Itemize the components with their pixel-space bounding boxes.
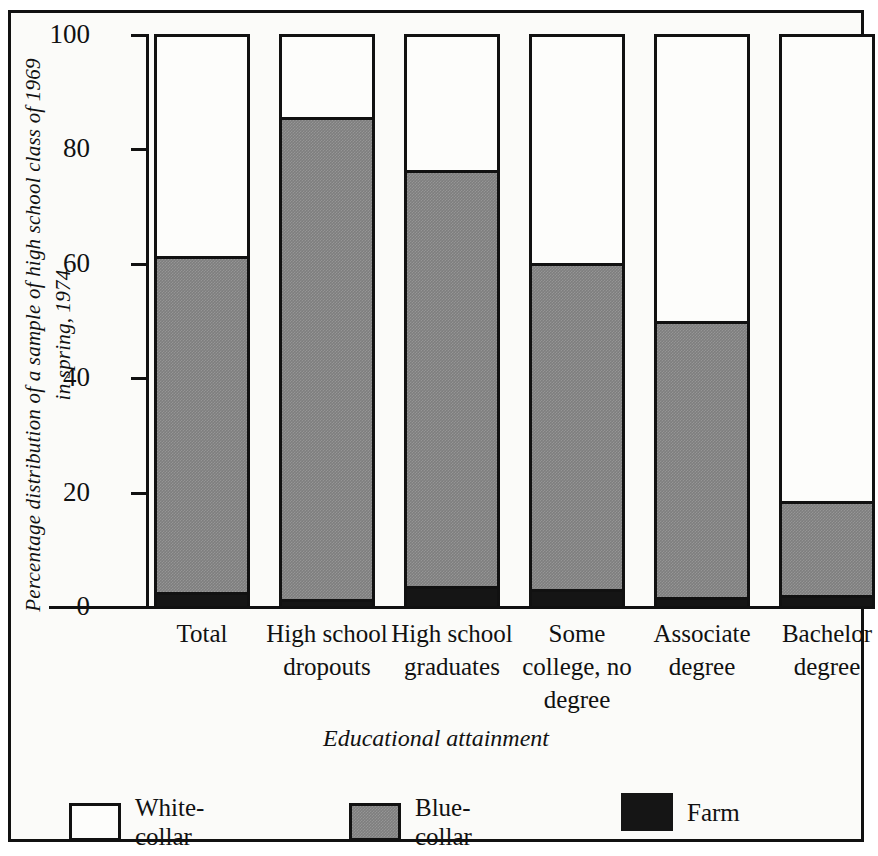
legend-label-white-collar: White- collar — [135, 793, 204, 851]
y-axis-line — [146, 34, 149, 609]
y-axis-tick-40 — [131, 377, 149, 380]
y-axis-tick-label-100: 100 — [26, 19, 90, 50]
legend-entry-white-collar: White- collar — [69, 793, 204, 851]
y-axis-tick-60 — [131, 263, 149, 266]
x-axis-tick-label-high-school-graduates: High school graduates — [382, 617, 522, 683]
legend-swatch-blue-collar-icon — [349, 803, 401, 841]
bar-segment-blue-collar — [282, 117, 372, 599]
y-axis-tick-0 — [131, 606, 149, 609]
bar-segment-farm — [407, 586, 497, 606]
x-axis-tick-label-some-college-no-degree: Some college, no degree — [507, 617, 647, 716]
x-axis-tick-label-high-school-dropouts: High school dropouts — [257, 617, 397, 683]
bar-some-college-no-degree — [529, 34, 625, 609]
bar-segment-farm — [532, 589, 622, 606]
bar-segment-blue-collar — [657, 321, 747, 598]
bar-high-school-graduates — [404, 34, 500, 609]
legend-swatch-white-collar-icon — [69, 803, 121, 841]
x-axis-label: Educational attainment — [11, 725, 861, 752]
bar-bachelor-degree — [779, 34, 875, 609]
y-axis-tick-label-0: 0 — [26, 591, 90, 622]
chart-legend: White- collar Blue- collar Farm — [11, 793, 861, 839]
bar-segment-blue-collar — [782, 501, 872, 594]
legend-label-farm: Farm — [687, 798, 740, 827]
legend-label-blue-collar: Blue- collar — [415, 793, 472, 851]
y-axis-tick-80 — [131, 148, 149, 151]
legend-entry-blue-collar: Blue- collar — [349, 793, 472, 851]
chart-figure-frame: Percentage distribution of a sample of h… — [8, 10, 864, 842]
bar-segment-farm — [157, 592, 247, 606]
bar-total — [154, 34, 250, 609]
bar-segment-farm — [282, 599, 372, 606]
y-axis-tick-label-40: 40 — [26, 362, 90, 393]
y-axis-tick-label-20: 20 — [26, 477, 90, 508]
x-axis-tick-label-associate-degree: Associate degree — [632, 617, 772, 683]
plot-area: Percentage distribution of a sample of h… — [11, 13, 861, 839]
legend-entry-farm: Farm — [621, 793, 740, 831]
x-axis-tick-label-bachelor-degree: Bachelor degree — [757, 617, 878, 683]
bar-segment-farm — [782, 595, 872, 607]
bar-segment-blue-collar — [157, 256, 247, 591]
bar-high-school-dropouts — [279, 34, 375, 609]
x-axis-tick-label-total: Total — [132, 617, 272, 650]
y-axis-tick-20 — [131, 492, 149, 495]
bar-segment-blue-collar — [407, 170, 497, 586]
legend-swatch-farm-icon — [621, 793, 673, 831]
bar-segment-farm — [657, 597, 747, 606]
bar-segment-blue-collar — [532, 263, 622, 588]
y-axis-tick-label-80: 80 — [26, 133, 90, 164]
y-axis-tick-label-60: 60 — [26, 248, 90, 279]
bar-associate-degree — [654, 34, 750, 609]
y-axis-tick-100 — [131, 34, 149, 37]
